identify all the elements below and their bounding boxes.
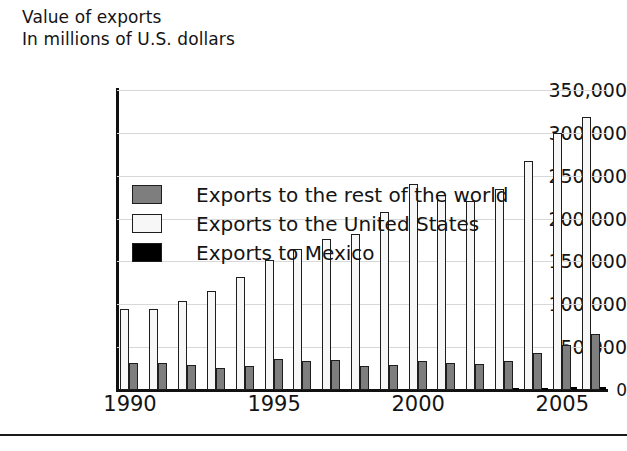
- bar-us-1992[interactable]: [178, 301, 187, 390]
- chart-title-block: Value of exports In millions of U.S. dol…: [22, 6, 235, 51]
- bar-row-1996[interactable]: [302, 361, 311, 390]
- legend-swatch-icon-mex: [132, 243, 162, 262]
- bar-row-1995[interactable]: [274, 359, 283, 390]
- legend-item-row[interactable]: Exports to the rest of the world: [132, 180, 508, 209]
- bar-us-1996[interactable]: [293, 249, 302, 390]
- bar-row-1998[interactable]: [360, 366, 369, 390]
- bar-us-1994[interactable]: [236, 277, 245, 390]
- bar-row-2001[interactable]: [446, 363, 455, 390]
- chart-legend: Exports to the rest of the worldExports …: [132, 180, 508, 267]
- bar-mex-2005[interactable]: [571, 387, 577, 390]
- bar-us-2005[interactable]: [553, 133, 562, 390]
- bar-row-2000[interactable]: [418, 361, 427, 390]
- page-title: Value of exports: [22, 6, 235, 28]
- bar-row-2002[interactable]: [475, 364, 484, 390]
- footer-divider: [0, 434, 627, 436]
- legend-swatch-icon-row: [132, 185, 162, 204]
- bar-group: [553, 90, 577, 390]
- bar-row-2003[interactable]: [504, 361, 513, 390]
- bar-row-2005[interactable]: [562, 345, 571, 390]
- legend-item-mex[interactable]: Exports to Mexico: [132, 238, 508, 267]
- bar-row-1992[interactable]: [187, 365, 196, 390]
- legend-swatch-icon-us: [132, 214, 162, 233]
- bar-row-2004[interactable]: [533, 353, 542, 390]
- bar-us-2006[interactable]: [582, 117, 591, 390]
- page-subtitle: In millions of U.S. dollars: [22, 28, 235, 50]
- bar-us-1991[interactable]: [149, 309, 158, 390]
- bar-us-1990[interactable]: [120, 309, 129, 390]
- bar-group: [582, 90, 606, 390]
- bar-row-1994[interactable]: [245, 366, 254, 390]
- bar-row-1990[interactable]: [129, 363, 138, 390]
- x-tick-label: 2005: [536, 392, 589, 416]
- bar-row-1991[interactable]: [158, 363, 167, 390]
- bar-mex-2003[interactable]: [513, 388, 519, 390]
- bar-row-1993[interactable]: [216, 368, 225, 390]
- bar-mex-2004[interactable]: [542, 388, 548, 390]
- bar-group: [524, 90, 548, 390]
- bar-chart: 050,000100,000150,000200,000250,000300,0…: [0, 78, 627, 423]
- bar-row-2006[interactable]: [591, 334, 600, 390]
- legend-item-us[interactable]: Exports to the United States: [132, 209, 508, 238]
- bar-us-1993[interactable]: [207, 291, 216, 390]
- legend-label: Exports to Mexico: [196, 241, 375, 265]
- bar-row-1997[interactable]: [331, 360, 340, 390]
- x-tick-label: 1995: [247, 392, 300, 416]
- x-tick-label: 2000: [392, 392, 445, 416]
- bar-mex-2006[interactable]: [600, 387, 606, 390]
- bar-us-1995[interactable]: [265, 260, 274, 390]
- legend-label: Exports to the rest of the world: [196, 183, 508, 207]
- bar-us-2004[interactable]: [524, 161, 533, 390]
- legend-label: Exports to the United States: [196, 212, 479, 236]
- bar-row-1999[interactable]: [389, 365, 398, 390]
- x-tick-label: 1990: [103, 392, 156, 416]
